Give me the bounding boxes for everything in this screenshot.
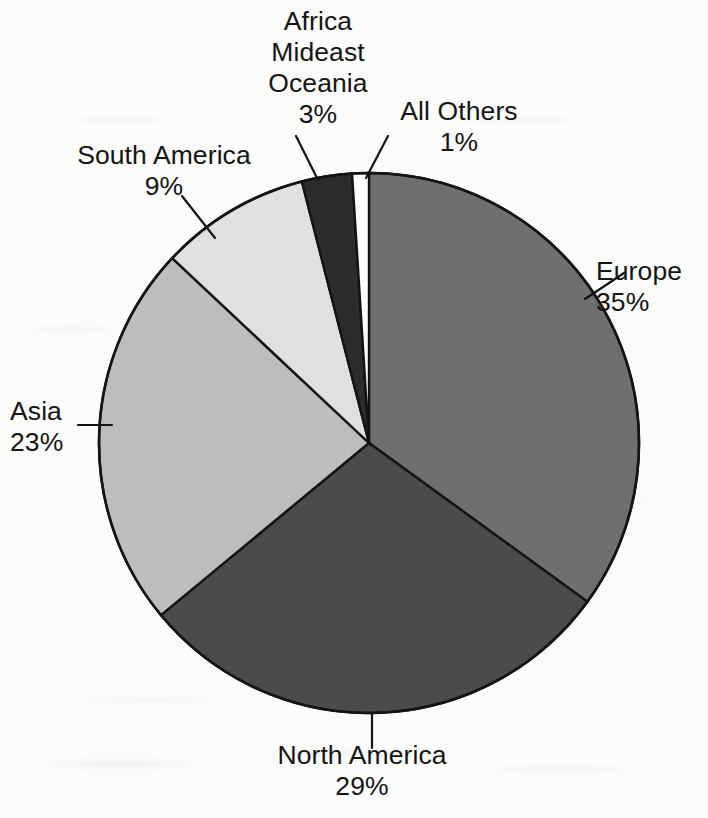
slice-label-asia: Asia 23% [10,396,118,458]
slice-label-north-america: North America 29% [240,740,484,802]
slice-label-all-others-line1: All Others [360,96,558,127]
slice-value-all-others: 1% [360,127,558,158]
pie-chart: Africa Mideast Oceania 3% All Others 1% … [0,0,708,818]
slice-label-africa-line2: Mideast [238,37,398,68]
slice-value-south-america: 9% [50,171,278,202]
leader-line-south-america [182,196,215,238]
slice-value-europe: 35% [596,287,704,318]
slice-label-africa-line1: Africa [238,6,398,37]
slice-label-africa-line3: Oceania [238,68,398,99]
slice-label-all-others: All Others 1% [360,96,558,158]
slice-label-south-america: South America 9% [50,140,278,202]
slice-label-north-america-line1: North America [240,740,484,771]
slice-label-south-america-line1: South America [50,140,278,171]
slice-value-asia: 23% [10,427,118,458]
slice-label-europe: Europe 35% [596,256,704,318]
pie-slices [99,173,639,713]
leader-line-africa [296,136,318,180]
slice-value-north-america: 29% [240,771,484,802]
slice-label-asia-line1: Asia [10,396,118,427]
slice-label-europe-line1: Europe [596,256,704,287]
